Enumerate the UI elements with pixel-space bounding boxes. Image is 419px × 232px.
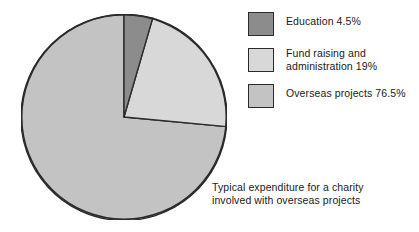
legend-item-education[interactable]: Education 4.5% [248, 11, 419, 36]
legend-swatch-education [248, 12, 274, 36]
legend-label-education: Education 4.5% [286, 11, 361, 28]
legend-swatch-fund-raising-and-administration [248, 48, 274, 72]
legend-item-overseas-projects[interactable]: Overseas projects 76.5% [248, 83, 419, 108]
figure-caption: Typical expenditure for a charity involv… [212, 181, 364, 207]
pie-chart-svg [21, 14, 227, 220]
legend: Education 4.5% Fund raising and administ… [248, 11, 419, 108]
legend-swatch-overseas-projects [248, 84, 274, 108]
legend-label-fund-raising-and-administration: Fund raising and administration 19% [286, 47, 377, 72]
pie-chart [21, 14, 227, 220]
pie-chart-figure: Education 4.5% Fund raising and administ… [0, 0, 419, 232]
legend-item-fund-raising-and-administration[interactable]: Fund raising and administration 19% [248, 47, 419, 72]
legend-label-overseas-projects: Overseas projects 76.5% [286, 83, 406, 100]
